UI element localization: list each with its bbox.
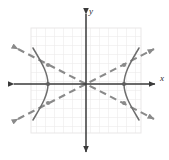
asymptote-dot-lower-left xyxy=(46,101,50,105)
y-axis-label: y xyxy=(88,6,93,16)
asymptote-dot-lower-right xyxy=(122,101,126,105)
vertex-right-marker xyxy=(122,82,126,86)
graph-canvas: y x xyxy=(0,0,169,160)
hyperbola-figure: y x xyxy=(0,0,169,160)
asymptote-dot-upper-left xyxy=(46,63,50,67)
x-axis-label: x xyxy=(159,73,164,83)
asymptote-dot-upper-right xyxy=(122,63,126,67)
vertex-left-marker xyxy=(46,82,50,86)
